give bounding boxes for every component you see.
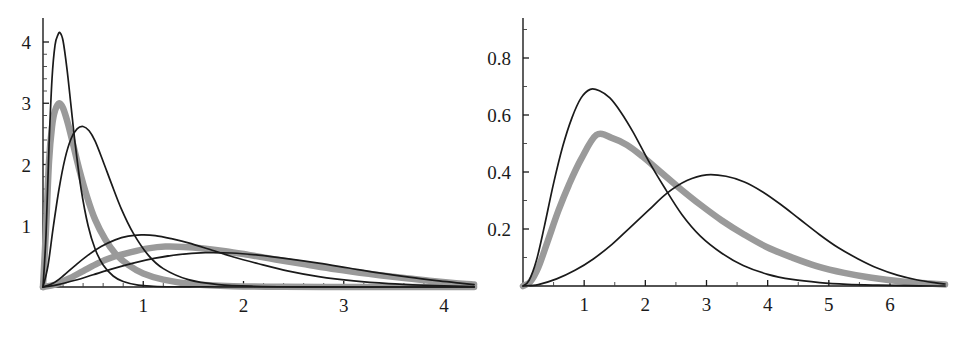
y-tick-label: 2 — [22, 155, 32, 176]
curves-group — [43, 32, 474, 287]
x-tick-label: 6 — [885, 294, 895, 315]
curves-group — [523, 89, 945, 286]
chart-left-svg: 12341234 — [0, 0, 480, 339]
chart-panel-left: 12341234 — [0, 0, 480, 339]
x-tick-label: 3 — [339, 295, 349, 316]
y-tick-label: 0.6 — [487, 105, 511, 126]
x-tick-label: 2 — [239, 295, 249, 316]
x-tick-label: 4 — [439, 295, 449, 316]
y-tick-label: 0.2 — [487, 219, 511, 240]
y-tick-label: 4 — [22, 32, 32, 53]
axes-group — [43, 18, 460, 287]
chart-right-svg: 1234560.20.40.60.8 — [480, 0, 959, 339]
x-tick-label: 2 — [641, 294, 651, 315]
y-tick-label: 0.4 — [487, 162, 511, 183]
y-tick-label: 0.8 — [487, 48, 511, 69]
x-tick-label: 4 — [763, 294, 773, 315]
two-panel-density-figure: 12341234 1234560.20.40.60.8 — [0, 0, 959, 339]
y-tick-label: 3 — [22, 93, 32, 114]
y-tick-label: 1 — [22, 216, 32, 237]
curve-black-tall-left — [523, 89, 945, 286]
x-tick-label: 5 — [824, 294, 834, 315]
x-tick-label: 1 — [579, 294, 589, 315]
tick-labels-group: 1234560.20.40.60.8 — [487, 48, 895, 315]
curve-gray-broad — [43, 246, 474, 287]
x-tick-label: 3 — [702, 294, 712, 315]
chart-panel-right: 1234560.20.40.60.8 — [480, 0, 959, 339]
x-tick-label: 1 — [139, 295, 149, 316]
